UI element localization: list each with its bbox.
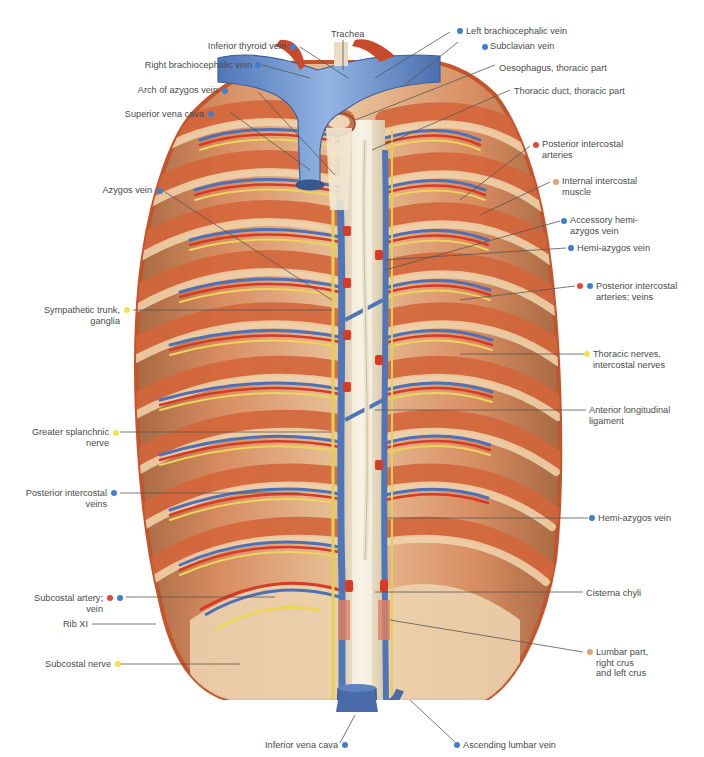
label-inferior-vena-cava: Inferior vena cava (220, 740, 338, 751)
label-rib-xi: Rib XI (40, 619, 88, 630)
vein-marker-icon (561, 218, 567, 224)
label-subcostal-artery-vein: Subcostal artery; vein (10, 593, 103, 614)
label-left-brachiocephalic-vein: Left brachiocephalic vein (466, 26, 567, 37)
label-greater-splanchnic-nerve: Greater splanchnic nerve (10, 427, 109, 448)
label-line: Sympathetic trunk, (44, 305, 120, 315)
nerve-marker-icon (584, 351, 590, 357)
label-right-brachiocephalic-vein: Right brachiocephalic vein (100, 60, 252, 71)
label-subcostal-nerve: Subcostal nerve (20, 659, 111, 670)
label-posterior-intercostal-veins: Posterior intercostal veins (10, 488, 107, 509)
label-line: Anterior longitudinal (589, 405, 670, 415)
label-line: ganglia (90, 316, 120, 326)
label-trachea: Trachea (331, 29, 364, 40)
label-azygos-vein: Azygos vein (60, 185, 152, 196)
vein-marker-icon (255, 62, 261, 68)
label-line: Internal intercostal (562, 176, 637, 186)
artery-marker-icon (533, 142, 539, 148)
anatomy-figure: Inferior thyroid vein Trachea Left brach… (0, 0, 704, 757)
label-line: Thoracic nerves, (593, 349, 661, 359)
label-thoracic-nerves: Thoracic nerves, intercostal nerves (593, 349, 665, 370)
artery-marker-icon (107, 595, 113, 601)
artery-marker-icon (577, 283, 583, 289)
label-thoracic-duct: Thoracic duct, thoracic part (514, 86, 625, 97)
label-line: Posterior intercostal (26, 488, 107, 498)
vein-marker-icon (111, 490, 117, 496)
label-anterior-longitudinal-ligament: Anterior longitudinal ligament (589, 405, 670, 426)
label-sympathetic-trunk: Sympathetic trunk, ganglia (20, 305, 120, 326)
label-line: Subcostal artery; (34, 593, 103, 603)
muscle-marker-icon (587, 649, 593, 655)
label-line: Accessory hemi- (570, 215, 638, 225)
vein-marker-icon (589, 515, 595, 521)
label-arch-of-azygos-vein: Arch of azygos vein (100, 85, 218, 96)
label-lumbar-part-crus: Lumbar part, right crus and left crus (596, 647, 648, 679)
label-hemiazygos-vein-lower: Hemi-azygos vein (598, 513, 671, 524)
vein-marker-icon (454, 742, 460, 748)
label-line: and left crus (596, 668, 646, 678)
label-line: arteries; veins (596, 292, 653, 302)
label-posterior-intercostal-arteries: Posterior intercostal arteries (542, 139, 623, 160)
label-subclavian-vein: Subclavian vein (490, 41, 554, 52)
vein-marker-icon (222, 88, 228, 94)
vein-marker-icon (482, 44, 488, 50)
label-line: ligament (589, 416, 624, 426)
label-cisterna-chyli: Cisterna chyli (586, 588, 641, 599)
label-inferior-thyroid-vein: Inferior thyroid vein (198, 41, 286, 52)
label-line: azygos vein (570, 226, 619, 236)
vein-marker-icon (290, 44, 296, 50)
nerve-marker-icon (115, 661, 121, 667)
vein-marker-icon (457, 28, 463, 34)
vein-marker-icon (342, 742, 348, 748)
label-line: Lumbar part, (596, 647, 648, 657)
nerve-marker-icon (124, 307, 130, 313)
label-accessory-hemiazygos-vein: Accessory hemi- azygos vein (570, 215, 638, 236)
label-line: intercostal nerves (593, 360, 665, 370)
label-oesophagus: Oesophagus, thoracic part (499, 63, 607, 74)
vein-marker-icon (587, 283, 593, 289)
label-line: vein (86, 604, 103, 614)
nerve-marker-icon (113, 430, 119, 436)
label-internal-intercostal-muscle: Internal intercostal muscle (562, 176, 637, 197)
vein-marker-icon (157, 188, 163, 194)
label-line: Greater splanchnic (32, 427, 109, 437)
label-hemiazygos-vein-upper: Hemi-azygos vein (577, 243, 650, 254)
vein-marker-icon (208, 111, 214, 117)
vein-marker-icon (568, 245, 574, 251)
label-ascending-lumbar-vein: Ascending lumbar vein (463, 740, 556, 751)
label-line: Posterior intercostal (596, 281, 677, 291)
label-line: veins (86, 499, 107, 509)
vein-marker-icon (117, 595, 123, 601)
label-line: nerve (86, 438, 109, 448)
label-line: Posterior intercostal (542, 139, 623, 149)
label-superior-vena-cava: Superior vena cava (100, 109, 204, 120)
label-posterior-intercostal-arteries-veins: Posterior intercostal arteries; veins (596, 281, 677, 302)
label-line: arteries (542, 150, 573, 160)
muscle-marker-icon (553, 179, 559, 185)
label-line: right crus (596, 658, 634, 668)
label-line: muscle (562, 187, 591, 197)
